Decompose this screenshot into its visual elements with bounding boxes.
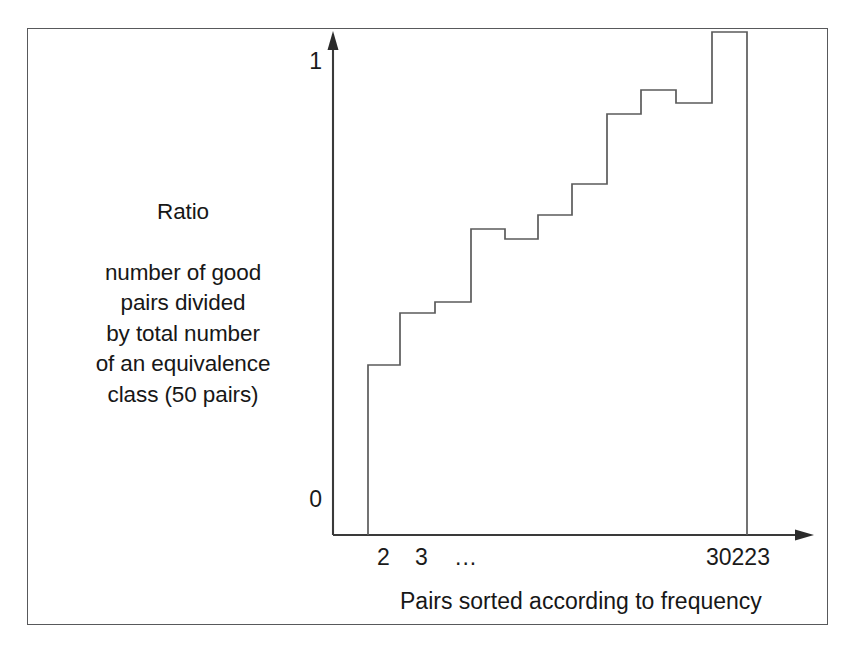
x-tick-label-30223: 30223 — [706, 546, 770, 569]
y-tick-label-0: 0 — [296, 488, 322, 511]
x-tick-label-ellipsis: ... — [455, 546, 477, 569]
figure-page: Ratio number of good pairs divided by to… — [0, 0, 854, 659]
ratio-body: number of good pairs divided by total nu… — [58, 258, 308, 411]
x-tick-label-2: 2 — [377, 546, 390, 569]
ratio-title: Ratio — [58, 197, 308, 228]
y-axis-description: Ratio number of good pairs divided by to… — [58, 166, 308, 441]
x-tick-label-3: 3 — [415, 546, 428, 569]
y-tick-label-1: 1 — [296, 50, 322, 73]
x-axis-title: Pairs sorted according to frequency — [400, 589, 762, 614]
